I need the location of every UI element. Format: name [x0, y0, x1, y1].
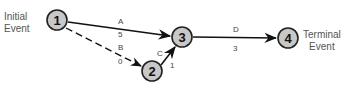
node-4: 4 — [278, 28, 298, 48]
network-diagram: A 5 B 0 C 1 D 3 1 2 3 4 — [0, 0, 362, 93]
node-3-label: 3 — [178, 30, 185, 45]
edge-d-activity: D — [233, 25, 239, 34]
edge-d: D 3 — [193, 25, 276, 53]
node-2-label: 2 — [148, 64, 155, 79]
edge-b-activity: B — [118, 43, 123, 52]
edge-a-activity: A — [118, 17, 124, 26]
node-4-label: 4 — [284, 31, 292, 46]
edge-a: A 5 — [68, 17, 170, 39]
edge-b-duration: 0 — [118, 57, 123, 66]
node-3: 3 — [172, 27, 192, 47]
node-1: 1 — [47, 10, 67, 30]
node-1-label: 1 — [53, 13, 60, 28]
edge-c-activity: C — [157, 49, 163, 58]
edge-c-duration: 1 — [170, 61, 175, 70]
edge-a-duration: 5 — [118, 30, 123, 39]
node-2: 2 — [142, 61, 162, 81]
edge-b: B 0 — [66, 28, 141, 66]
edge-d-duration: 3 — [233, 44, 238, 53]
